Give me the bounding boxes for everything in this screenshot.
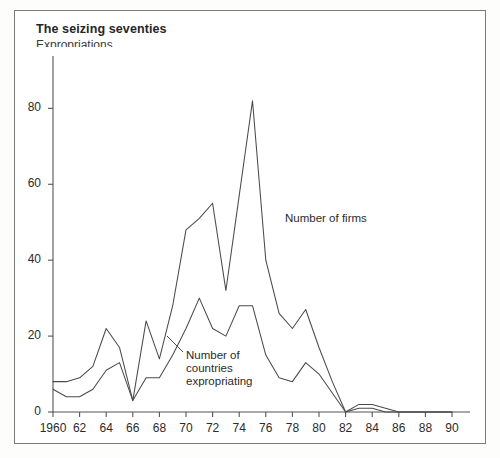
x-tick-label: 82 bbox=[339, 421, 352, 435]
y-tick-label: 40 bbox=[11, 252, 41, 266]
x-tick-label: 76 bbox=[259, 421, 272, 435]
y-tick-label: 20 bbox=[11, 328, 41, 342]
x-tick-label: 68 bbox=[153, 421, 166, 435]
x-tick-label: 74 bbox=[233, 421, 246, 435]
y-tick-label: 0 bbox=[11, 404, 41, 418]
x-tick-label: 88 bbox=[419, 421, 432, 435]
x-tick-label: 90 bbox=[445, 421, 458, 435]
chart-plot-area bbox=[0, 0, 500, 458]
chart-axes bbox=[53, 56, 470, 412]
x-tick-label: 72 bbox=[206, 421, 219, 435]
series-line-countries bbox=[53, 298, 452, 412]
firms-label: Number of firms bbox=[285, 212, 367, 225]
y-tick-label: 60 bbox=[11, 176, 41, 190]
chart-figure: The seizing seventies Expropriations 020… bbox=[0, 0, 500, 458]
x-tick-label: 66 bbox=[126, 421, 139, 435]
x-tick-label: 62 bbox=[73, 421, 86, 435]
y-tick-label: 80 bbox=[11, 100, 41, 114]
x-tick-label: 80 bbox=[312, 421, 325, 435]
chart-series-lines bbox=[53, 101, 452, 412]
x-tick-label: 86 bbox=[392, 421, 405, 435]
countries-label: Number of countries expropriating bbox=[186, 349, 252, 388]
x-tick-label: 78 bbox=[286, 421, 299, 435]
x-tick-label: 70 bbox=[179, 421, 192, 435]
x-tick-label: 1960 bbox=[40, 421, 67, 435]
series-line-firms bbox=[53, 101, 452, 412]
x-tick-label: 64 bbox=[100, 421, 113, 435]
x-tick-label: 84 bbox=[366, 421, 379, 435]
